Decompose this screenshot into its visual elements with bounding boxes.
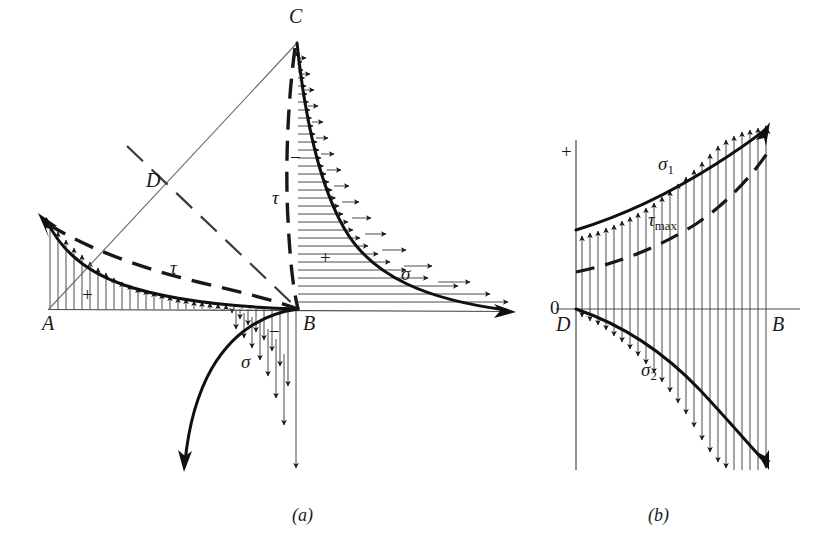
panel-a-label-tau-left: τ xyxy=(170,258,177,277)
panel-b-label-sigma1: σ1 xyxy=(658,154,674,177)
panel-a-label-tau-center: τ xyxy=(272,188,279,207)
panel-a-label-C: C xyxy=(289,6,302,26)
panel-a-sign-plus-right: + xyxy=(320,248,331,267)
panel-a-label-D: D xyxy=(146,170,160,190)
panel-a-label-sigma-right: σ xyxy=(401,264,410,283)
panel-b-label-sigma2: σ2 xyxy=(641,360,657,383)
panel-b-taumax-subscript: max xyxy=(655,218,677,233)
panel-a-label-sigma-lower: σ xyxy=(241,352,250,371)
panel-b-sigma1-glyph: σ xyxy=(658,153,667,174)
panel-b-label-B: B xyxy=(772,314,784,334)
panel-b-sigma2-glyph: σ xyxy=(641,359,650,380)
panel-b-sigma2-subscript: 2 xyxy=(650,368,656,383)
panel-a-sign-minus-upper: − xyxy=(290,148,301,167)
stress-distribution-figure xyxy=(0,0,829,555)
panel-a-label-A: A xyxy=(42,313,54,333)
panel-a-sign-minus-lower: − xyxy=(269,322,280,341)
panel-b-label-plus: + xyxy=(561,142,572,161)
panel-a-sign-plus-left: + xyxy=(82,285,93,304)
panel-a-label-B: B xyxy=(303,313,315,333)
panel-b-sigma1-subscript: 1 xyxy=(667,162,673,177)
panel-b-label-taumax: τmax xyxy=(648,210,677,233)
caption-panel-b: (b) xyxy=(648,505,669,526)
panel-b-taumax-glyph: τ xyxy=(648,209,655,230)
caption-panel-a: (a) xyxy=(292,505,313,526)
panel-b-label-D: D xyxy=(556,314,570,334)
